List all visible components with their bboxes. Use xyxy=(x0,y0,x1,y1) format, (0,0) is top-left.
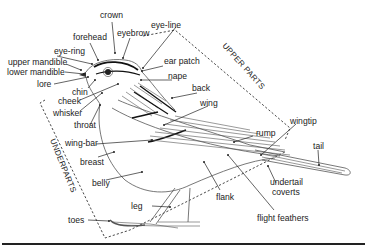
label-eye-line: eye-line xyxy=(151,20,181,30)
label-undertail-coverts-line1: undertail xyxy=(270,177,303,187)
label-forehead: forehead xyxy=(73,32,107,42)
label-whisker: whisker xyxy=(52,108,82,118)
label-undertail-coverts-line2: coverts xyxy=(272,187,300,197)
label-throat: throat xyxy=(74,120,97,130)
label-flank: flank xyxy=(216,192,235,202)
label-cheek: cheek xyxy=(58,96,82,106)
label-lore: lore xyxy=(37,79,52,89)
label-wing: wing xyxy=(199,98,218,108)
bird-illustration xyxy=(79,60,350,229)
label-breast: breast xyxy=(80,157,104,167)
label-eye-ring: eye-ring xyxy=(54,46,85,56)
label-upper-mandible: upper mandible xyxy=(8,57,67,67)
label-tail: tail xyxy=(313,141,324,151)
label-back: back xyxy=(192,83,211,93)
label-lower-mandible: lower mandible xyxy=(7,67,65,77)
region-upper-parts: UPPER PARTS xyxy=(221,41,267,91)
label-belly: belly xyxy=(92,178,110,188)
label-nape: nape xyxy=(168,71,187,81)
label-leg: leg xyxy=(131,201,143,211)
bottom-divider xyxy=(2,243,365,245)
label-eyebrow: eyebrow xyxy=(117,28,150,38)
label-toes: toes xyxy=(68,215,84,225)
label-flight-feathers: flight feathers xyxy=(257,213,309,223)
label-wing-bar: wing-bar xyxy=(64,138,98,148)
label-rump: rump xyxy=(256,128,276,138)
label-wingtip: wingtip xyxy=(289,116,317,126)
label-ear-patch: ear patch xyxy=(164,56,200,66)
bird-topography-diagram: UPPER PARTS UNDERPARTS crown forehead xyxy=(0,0,367,249)
label-crown: crown xyxy=(100,10,123,20)
